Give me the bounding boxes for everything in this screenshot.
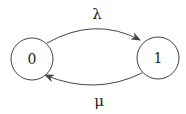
state-label-1: 1 [154,50,163,66]
transition-0-to-1: λ [47,5,140,43]
state-node-0: 0 [11,38,53,80]
state-node-1: 1 [137,37,179,79]
transition-1-to-0: μ [45,73,142,110]
arrow-1-to-0 [45,73,142,85]
state-diagram: λ μ 0 1 [0,0,186,114]
rate-label-lambda: λ [92,5,102,23]
state-label-0: 0 [28,51,37,67]
rate-label-mu: μ [94,92,104,110]
arrow-0-to-1 [47,29,140,43]
